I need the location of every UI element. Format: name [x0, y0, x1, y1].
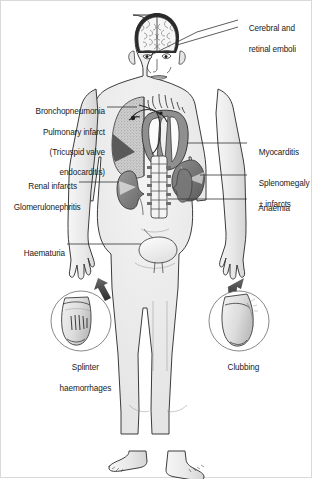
leader-cerebral-b — [177, 27, 238, 45]
label-line: Bronchopneumonia — [36, 107, 105, 116]
label-line: haemorrhages — [60, 384, 112, 393]
label-line: retinal emboli — [249, 45, 296, 54]
label-splinter-haemorrhages: Splinter haemorrhages — [31, 353, 131, 404]
label-line: Pulmonary infarct — [43, 128, 105, 137]
label-haematuria: Haematuria — [5, 239, 65, 270]
inset-clubbing — [209, 291, 269, 351]
eye-left — [146, 55, 149, 58]
label-line: Renal infarcts — [28, 182, 77, 191]
label-line: Clubbing — [228, 363, 260, 372]
label-line: Anaemia — [258, 204, 290, 213]
label-renal-infarcts-glomerulonephritis: Renal infarcts Glomerulonephritis — [5, 172, 77, 223]
label-line: (Tricuspid valve — [50, 148, 105, 157]
vertebral-column — [147, 156, 171, 218]
label-cerebral-and-retinal-emboli: Cerebral and retinal emboli — [240, 14, 296, 65]
label-line: Haematuria — [24, 249, 65, 258]
label-line: Glomerulonephritis — [14, 203, 81, 212]
eye-right — [165, 55, 168, 58]
label-myocarditis: Myocarditis — [250, 138, 299, 169]
label-clubbing: Clubbing — [194, 353, 284, 384]
inset-splinter-haemorrhages — [51, 291, 111, 351]
label-line: Myocarditis — [259, 148, 299, 157]
label-line: Splinter — [72, 363, 99, 372]
head-and-face — [129, 13, 186, 79]
label-line: Splenomegaly — [259, 179, 310, 188]
label-anaemia: Anaemia — [250, 194, 290, 225]
label-line: Cerebral and — [249, 24, 295, 33]
